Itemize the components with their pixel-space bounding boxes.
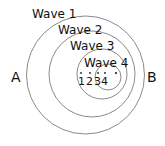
- source-dot-1: [80, 72, 82, 74]
- source-dot-3: [97, 72, 99, 74]
- side-label-a: A: [11, 69, 21, 85]
- position-label-3: 3: [94, 75, 101, 88]
- source-dot-2: [89, 72, 91, 74]
- source-dot-current: [115, 72, 117, 74]
- position-label-1: 1: [78, 75, 85, 88]
- position-label-2: 2: [86, 75, 93, 88]
- wave-1-label: Wave 1: [32, 7, 76, 21]
- wave-4-label: Wave 4: [84, 56, 128, 70]
- side-label-b: B: [147, 69, 157, 85]
- source-dot-4: [104, 72, 106, 74]
- wave-2-label: Wave 2: [58, 23, 102, 37]
- wave-3-label: Wave 3: [70, 39, 114, 53]
- position-label-4: 4: [101, 75, 108, 88]
- doppler-diagram: Wave 1 Wave 2 Wave 3 Wave 4 A B 1 2 3 4: [0, 0, 165, 146]
